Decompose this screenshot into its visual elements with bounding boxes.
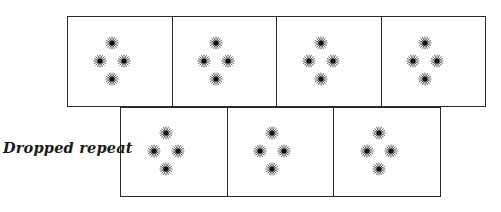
starburst-icon	[105, 71, 119, 85]
starburst-icon	[314, 71, 328, 85]
starburst-icon	[147, 143, 161, 157]
starburst-icon	[277, 143, 291, 157]
starburst-icon	[360, 143, 374, 157]
top-row-tile	[67, 16, 173, 107]
starburst-icon	[209, 35, 223, 49]
starburst-icon	[314, 35, 328, 49]
starburst-icon	[265, 161, 279, 175]
dropped-repeat-label: Dropped repeat	[3, 139, 133, 156]
starburst-icon	[209, 71, 223, 85]
starburst-icon	[326, 53, 340, 67]
starburst-icon	[418, 71, 432, 85]
starburst-icon	[159, 125, 173, 139]
top-row-tile	[381, 16, 487, 107]
starburst-icon	[105, 35, 119, 49]
starburst-icon	[372, 125, 386, 139]
top-row-tile	[172, 16, 278, 107]
dropped-row-tile	[333, 107, 441, 197]
starburst-icon	[159, 161, 173, 175]
starburst-icon	[406, 53, 420, 67]
starburst-icon	[372, 161, 386, 175]
starburst-icon	[221, 53, 235, 67]
starburst-icon	[418, 35, 432, 49]
starburst-icon	[93, 53, 107, 67]
starburst-icon	[117, 53, 131, 67]
dropped-row-tile	[227, 107, 335, 197]
starburst-icon	[171, 143, 185, 157]
starburst-icon	[302, 53, 316, 67]
dropped-row-tile	[120, 107, 228, 197]
starburst-icon	[197, 53, 211, 67]
starburst-icon	[253, 143, 267, 157]
starburst-icon	[430, 53, 444, 67]
starburst-icon	[384, 143, 398, 157]
top-row-tile	[276, 16, 382, 107]
starburst-icon	[265, 125, 279, 139]
